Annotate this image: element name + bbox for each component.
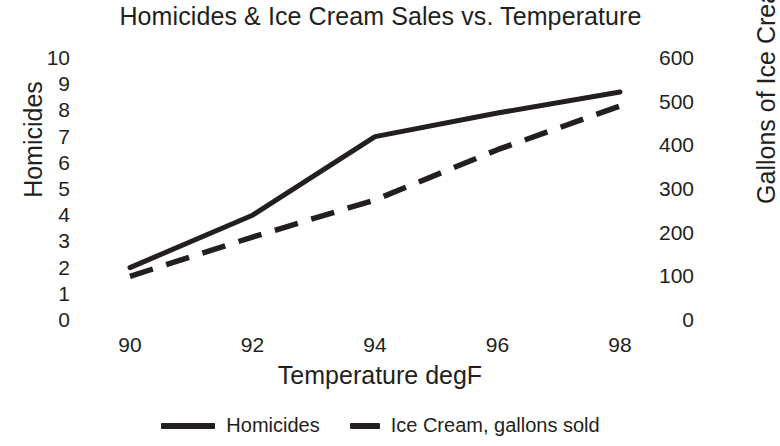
y-axis-left-tick-label: 8: [26, 99, 70, 120]
x-axis-tick-label: 98: [590, 334, 650, 355]
y-axis-left-tick-label: 9: [26, 73, 70, 94]
y-axis-left-tick-label: 4: [26, 204, 70, 225]
y-axis-right-tick-label: 400: [640, 134, 694, 155]
x-axis-tick-label: 96: [468, 334, 528, 355]
x-axis-tick-label: 92: [223, 334, 283, 355]
y-axis-left-tick-label: 7: [26, 126, 70, 147]
legend-swatch-dashed-icon: [350, 423, 380, 429]
legend-item[interactable]: Homicides: [161, 414, 319, 437]
legend-item[interactable]: Ice Cream, gallons sold: [350, 414, 600, 437]
y-axis-left-tick-label: 6: [26, 152, 70, 173]
y-axis-left-tick-label: 10: [26, 47, 70, 68]
x-axis-tick-label: 90: [100, 334, 160, 355]
y-axis-left-tick-label: 3: [26, 230, 70, 251]
chart-legend: HomicidesIce Cream, gallons sold: [0, 414, 761, 437]
y-axis-right-tick-label: 300: [640, 178, 694, 199]
y-axis-left-tick-label: 5: [26, 178, 70, 199]
y-axis-left-tick-label: 1: [26, 283, 70, 304]
x-axis-tick-label: 94: [345, 334, 405, 355]
legend-swatch-solid-icon: [161, 423, 215, 429]
legend-label: Homicides: [226, 414, 319, 437]
y-axis-right-tick-label: 600: [640, 47, 694, 68]
y-axis-right-tick-label: 100: [640, 265, 694, 286]
chart-title: Homicides & Ice Cream Sales vs. Temperat…: [0, 2, 761, 31]
series-line-homicides: [130, 92, 620, 268]
y-axis-left-tick-label: 2: [26, 257, 70, 278]
x-axis-title: Temperature degF: [100, 361, 660, 390]
y-axis-right-tick-label: 500: [640, 91, 694, 112]
y-axis-right-title: Gallons of Ice Cream: [752, 0, 780, 232]
y-axis-left-tick-label: 0: [26, 309, 70, 330]
series-line-ice-cream: [130, 106, 620, 276]
legend-label: Ice Cream, gallons sold: [391, 414, 600, 437]
y-axis-right-tick-label: 200: [640, 222, 694, 243]
y-axis-right-tick-label: 0: [640, 309, 694, 330]
